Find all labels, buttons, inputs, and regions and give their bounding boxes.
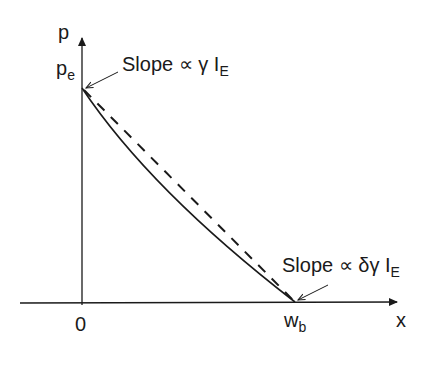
wb-label: wb — [284, 310, 306, 330]
dashed-line — [84, 90, 293, 300]
x-axis-label: x — [396, 310, 406, 330]
pe-label: pe — [56, 58, 75, 78]
p-axis-label: p — [58, 22, 69, 42]
top-slope-arrow — [86, 72, 118, 88]
bottom-slope-arrow — [298, 285, 328, 300]
x-axis — [20, 302, 397, 303]
slope-bottom-label: Slope ∝ δγ IE — [282, 255, 400, 275]
origin-label: 0 — [75, 314, 86, 334]
slope-top-label: Slope ∝ γ IE — [122, 54, 229, 74]
diagram: p pe Slope ∝ γ IE Slope ∝ δγ IE 0 wb x — [0, 0, 444, 370]
